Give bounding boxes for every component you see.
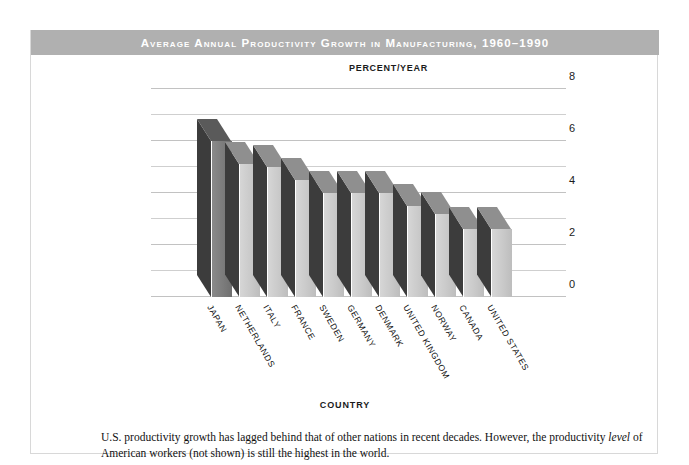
x-axis-tick-label: CANADA xyxy=(457,303,485,342)
figure-title-bar: Average Annual Productivity Growth in Ma… xyxy=(31,30,659,55)
caption-emphasis: level xyxy=(608,431,630,443)
x-axis-tick-label: UNITED STATES xyxy=(485,303,531,372)
x-axis-tick-label: ITALY xyxy=(261,303,282,330)
page-title: Average Annual Productivity Growth in Ma… xyxy=(141,37,550,49)
x-axis-tick-label: NORWAY xyxy=(429,303,458,344)
figure-panel: Average Annual Productivity Growth in Ma… xyxy=(30,30,658,454)
x-axis-tick-label: DENMARK xyxy=(373,303,405,349)
x-axis-tick-label: SWEDEN xyxy=(317,303,346,344)
x-axis-tick-label: FRANCE xyxy=(289,303,317,342)
x-axis-title: COUNTRY xyxy=(31,400,659,410)
x-axis-tick-label: GERMANY xyxy=(345,303,377,349)
chart-region: PERCENT/YEAR 02468 JAPANNETHERLANDSITALY… xyxy=(31,55,659,454)
caption-text-1: U.S. productivity growth has lagged behi… xyxy=(101,431,608,443)
x-axis-tick-label: JAPAN xyxy=(205,303,229,334)
figure-caption: U.S. productivity growth has lagged behi… xyxy=(101,430,661,461)
x-axis-tick-labels: JAPANNETHERLANDSITALYFRANCESWEDENGERMANY… xyxy=(31,55,659,454)
